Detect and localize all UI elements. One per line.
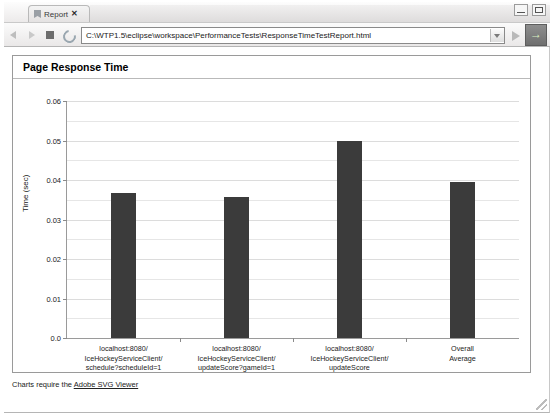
back-arrow-icon[interactable]: [6, 27, 22, 43]
tab-label: Report: [44, 10, 68, 19]
gridline-minor: [67, 121, 519, 122]
y-axis-tick-label: 0.01: [46, 294, 61, 303]
stop-icon[interactable]: [42, 27, 58, 43]
chevron-down-icon[interactable]: [490, 29, 504, 42]
y-axis-tick: [63, 101, 67, 102]
x-axis-label-line: IceHockeyServiceClient/: [177, 354, 297, 364]
minimize-button[interactable]: [514, 4, 528, 16]
x-axis-label-line: updateScore: [290, 363, 410, 373]
x-axis-label-line: updateScore?gameId=1: [177, 363, 297, 373]
gridline-minor: [67, 160, 519, 161]
y-axis-tick-label: 0.06: [46, 97, 61, 106]
x-axis-tick-label: localhost:8080/IceHockeyServiceClient/sc…: [64, 344, 184, 373]
tab-report[interactable]: Report ✕: [28, 5, 90, 22]
refresh-icon[interactable]: [60, 27, 76, 43]
maximize-button[interactable]: [532, 4, 546, 16]
x-axis-label-line: localhost:8080/: [64, 344, 184, 354]
y-axis-tick: [63, 338, 67, 339]
close-icon[interactable]: ✕: [71, 10, 78, 18]
y-axis-tick: [63, 259, 67, 260]
x-axis-label-line: Overall: [403, 344, 523, 354]
footer-text: Charts require the: [12, 380, 74, 389]
tab-strip: Report ✕: [4, 2, 550, 22]
x-axis-tick: [180, 338, 181, 342]
y-axis-tick-label: 0.0: [51, 334, 61, 343]
bar: [450, 182, 475, 338]
y-axis-tick-label: 0.05: [46, 136, 61, 145]
x-axis-label-line: localhost:8080/: [177, 344, 297, 354]
x-axis-tick-label: localhost:8080/IceHockeyServiceClient/up…: [290, 344, 410, 373]
chart-plot-area: 0.00.010.020.030.040.050.06localhost:808…: [66, 101, 519, 339]
tab-strip-background: [90, 5, 550, 22]
gridline-major: [67, 180, 519, 181]
x-axis-label-line: schedule?scheduleId=1: [64, 363, 184, 373]
gridline-major: [67, 101, 519, 102]
y-axis-title: Time (sec): [21, 175, 30, 212]
gridline-major: [67, 141, 519, 142]
y-axis-tick: [63, 141, 67, 142]
window-controls: [514, 4, 546, 16]
y-axis-tick: [63, 299, 67, 300]
page-icon: [34, 10, 41, 18]
report-panel: Page Response Time Time (sec) 0.00.010.0…: [12, 55, 531, 373]
y-axis-tick-label: 0.04: [46, 176, 61, 185]
green-arrow-icon[interactable]: [525, 24, 547, 46]
page-viewport: Page Response Time Time (sec) 0.00.010.0…: [4, 46, 550, 413]
browser-window: Report ✕ C:\WTP1.5\eclipse\workspace\Per…: [4, 2, 550, 412]
bar-chart: Time (sec) 0.00.010.020.030.040.050.06lo…: [13, 79, 530, 373]
adobe-svg-viewer-link[interactable]: Adobe SVG Viewer: [74, 380, 138, 389]
x-axis-label-line: IceHockeyServiceClient/: [290, 354, 410, 364]
y-axis-tick-label: 0.02: [46, 255, 61, 264]
y-axis-tick-label: 0.03: [46, 215, 61, 224]
bar: [337, 141, 362, 339]
y-axis-tick: [63, 180, 67, 181]
x-axis-tick: [293, 338, 294, 342]
x-axis-tick: [406, 338, 407, 342]
url-input[interactable]: C:\WTP1.5\eclipse\workspace\PerformanceT…: [82, 31, 490, 40]
x-axis-label-line: localhost:8080/: [290, 344, 410, 354]
x-axis-label-line: Average: [403, 354, 523, 364]
x-axis-tick-label: localhost:8080/IceHockeyServiceClient/up…: [177, 344, 297, 373]
go-arrow-icon[interactable]: [507, 27, 525, 43]
x-axis-label-line: IceHockeyServiceClient/: [64, 354, 184, 364]
bar: [111, 193, 136, 338]
page-title: Page Response Time: [13, 56, 530, 79]
footer-note: Charts require the Adobe SVG Viewer: [12, 380, 138, 389]
forward-arrow-icon[interactable]: [24, 27, 40, 43]
browser-toolbar: C:\WTP1.5\eclipse\workspace\PerformanceT…: [4, 22, 550, 47]
y-axis-tick: [63, 220, 67, 221]
resize-grip[interactable]: [536, 399, 547, 410]
bar: [224, 197, 249, 338]
x-axis-tick-label: OverallAverage: [403, 344, 523, 363]
address-bar[interactable]: C:\WTP1.5\eclipse\workspace\PerformanceT…: [81, 27, 505, 44]
